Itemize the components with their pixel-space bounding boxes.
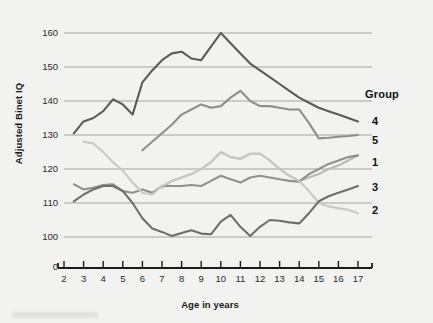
y-tick-label: 140	[24, 95, 58, 106]
y-origin-label: 0	[24, 261, 58, 272]
page-artifact	[12, 312, 98, 318]
legend-title: Group	[365, 88, 399, 100]
series-line-group-1	[162, 152, 358, 188]
y-tick-label: 110	[24, 197, 58, 208]
y-tick-label: 150	[24, 61, 58, 72]
y-tick-label: 160	[24, 27, 58, 38]
legend-label-group-2: 2	[372, 204, 388, 216]
x-tick-label: 17	[347, 273, 369, 284]
series-line-group-5	[142, 91, 358, 151]
series-line-group-group-3-lower	[74, 186, 358, 236]
y-tick-label: 130	[24, 129, 58, 140]
y-axis-title: Adjusted Binet IQ	[13, 64, 24, 184]
y-tick-label: 100	[24, 231, 58, 242]
axis-lines	[58, 261, 372, 268]
legend-label-group-1: 1	[372, 156, 388, 168]
legend-label-group-4: 4	[372, 115, 388, 127]
y-tick-label: 120	[24, 163, 58, 174]
data-series-lines	[74, 33, 358, 236]
x-axis-title: Age in years	[110, 299, 310, 310]
series-line-group-4	[74, 33, 358, 133]
chart-figure: Adjusted Binet IQ Age in years 100110120…	[0, 0, 433, 323]
legend-label-group-3: 3	[372, 181, 388, 193]
legend-label-group-5: 5	[372, 134, 388, 146]
